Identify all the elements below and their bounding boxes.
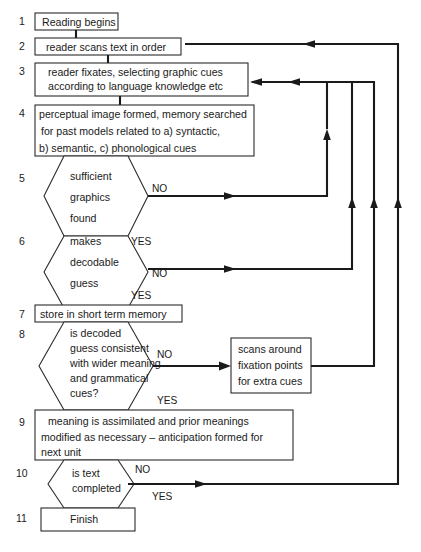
node-6-text-line-1: makes bbox=[70, 235, 101, 247]
step-number-8: 8 bbox=[19, 328, 25, 340]
node-5-text-line-2: graphics bbox=[70, 191, 110, 203]
step-number-6: 6 bbox=[19, 235, 25, 247]
edge-6-no-arrowhead-up bbox=[348, 197, 356, 208]
edge-label-6-yes: YES bbox=[131, 290, 152, 301]
node-9-text-line-1: meaning is assimilated and prior meaning… bbox=[48, 415, 249, 427]
node-3-text-line-2: according to language knowledge etc bbox=[48, 80, 224, 92]
edge-5-no-arrowhead-right bbox=[224, 192, 236, 200]
side-box-text-line-3: for extra cues bbox=[238, 375, 302, 387]
node-4-text-line-2: for past models related to a) syntactic, bbox=[41, 125, 220, 137]
edge-label-5-no: NO bbox=[152, 183, 167, 194]
edge-sidebox-arrowhead-up bbox=[370, 197, 378, 208]
edge-label-5-yes: YES bbox=[131, 236, 152, 247]
side-box-text-line-2: fixation points bbox=[238, 359, 303, 371]
step-number-9: 9 bbox=[19, 416, 25, 428]
node-8-text-line-4: and grammatical bbox=[70, 372, 148, 384]
step-number-10: 10 bbox=[16, 467, 28, 479]
step-number-5: 5 bbox=[19, 172, 25, 184]
node-8-text-line-3: with wider meaning bbox=[69, 357, 161, 369]
node-4-text-line-1: perceptual image formed, memory searched bbox=[39, 108, 247, 120]
edge-8-no-arrowhead bbox=[219, 361, 231, 370]
side-box-text-line-1: scans around bbox=[238, 343, 302, 355]
node-5-text-line-3: found bbox=[70, 212, 97, 224]
step-number-7: 7 bbox=[19, 308, 25, 320]
node-1-text-line-1: Reading begins bbox=[42, 16, 116, 28]
edge-10-no-arrowhead-up bbox=[394, 197, 402, 208]
node-6-text-line-3: guess bbox=[70, 277, 98, 289]
edge-label-10-yes: YES bbox=[152, 491, 173, 502]
step-number-1: 1 bbox=[19, 15, 25, 27]
flowchart-canvas: 1 Reading begins 2 reader scans text in … bbox=[0, 0, 421, 552]
edge-10-no-arrowhead-right bbox=[195, 480, 207, 488]
step-number-4: 4 bbox=[19, 107, 25, 119]
node-7-text-line-1: store in short term memory bbox=[40, 308, 167, 320]
node-11-text-line-1: Finish bbox=[70, 513, 98, 525]
node-2-text-line-1: reader scans text in order bbox=[46, 41, 167, 53]
edge-6-no-arrowhead-right bbox=[224, 265, 236, 273]
step-number-2: 2 bbox=[19, 40, 25, 52]
edge-5-no-return-to-3 bbox=[252, 82, 327, 129]
node-8-text-line-5: cues? bbox=[70, 387, 98, 399]
edge-label-8-no: NO bbox=[157, 349, 172, 360]
node-8-text-line-1: is decoded bbox=[70, 327, 121, 339]
edge-label-10-no: NO bbox=[135, 464, 150, 475]
node-9-text-line-2: modified as necessary – anticipation for… bbox=[41, 431, 263, 443]
step-number-3: 3 bbox=[19, 65, 25, 77]
edge-sidebox-return-path bbox=[288, 82, 374, 366]
edge-5-no-arrowhead-up bbox=[323, 129, 331, 140]
node-4-text-line-3: b) semantic, c) phonological cues bbox=[39, 142, 196, 154]
node-6-text-line-2: decodable bbox=[70, 256, 119, 268]
edge-label-8-yes: YES bbox=[157, 395, 178, 406]
node-10-text-line-1: is text bbox=[72, 467, 100, 479]
node-9-text-line-3: next unit bbox=[41, 446, 81, 458]
edge-10-no-arrowhead-into-2 bbox=[303, 40, 315, 48]
node-8-text-line-2: guess consistent bbox=[70, 342, 149, 354]
node-10-text-line-2: completed bbox=[72, 482, 121, 494]
step-number-11: 11 bbox=[16, 512, 27, 524]
node-5-text-line-1: sufficient bbox=[70, 170, 112, 182]
node-3-text-line-1: reader fixates, selecting graphic cues bbox=[48, 66, 223, 78]
